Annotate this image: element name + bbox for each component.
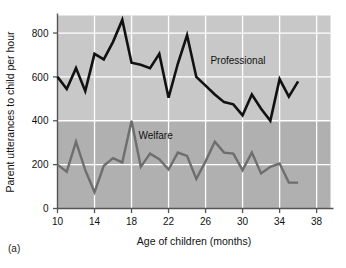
series-label-professional: Professional	[210, 55, 265, 66]
x-tick-label: 22	[163, 216, 175, 227]
x-tick-label: 38	[311, 216, 323, 227]
figure-caption: (a)	[8, 243, 20, 254]
x-axis-title: Age of children (months)	[137, 235, 251, 247]
y-tick-label: 0	[43, 203, 49, 214]
y-tick-label: 800	[32, 28, 49, 39]
y-axis-title: Parent utterances to child per hour	[4, 31, 16, 193]
y-axis-tick-labels: 0200400600800	[32, 28, 49, 214]
x-axis-tick-labels: 1014182226303438	[52, 216, 323, 227]
y-tick-label: 200	[32, 159, 49, 170]
x-tick-label: 14	[89, 216, 101, 227]
series-label-welfare: Welfare	[138, 130, 173, 141]
figure-panel: 1014182226303438 0200400600800 Professio…	[0, 0, 346, 268]
x-tick-label: 30	[237, 216, 249, 227]
x-tick-label: 10	[52, 216, 64, 227]
x-tick-label: 26	[200, 216, 212, 227]
x-tick-label: 34	[274, 216, 286, 227]
y-tick-label: 600	[32, 72, 49, 83]
line-chart: 1014182226303438 0200400600800 Professio…	[0, 0, 346, 268]
x-tick-label: 18	[126, 216, 138, 227]
y-tick-label: 400	[32, 115, 49, 126]
